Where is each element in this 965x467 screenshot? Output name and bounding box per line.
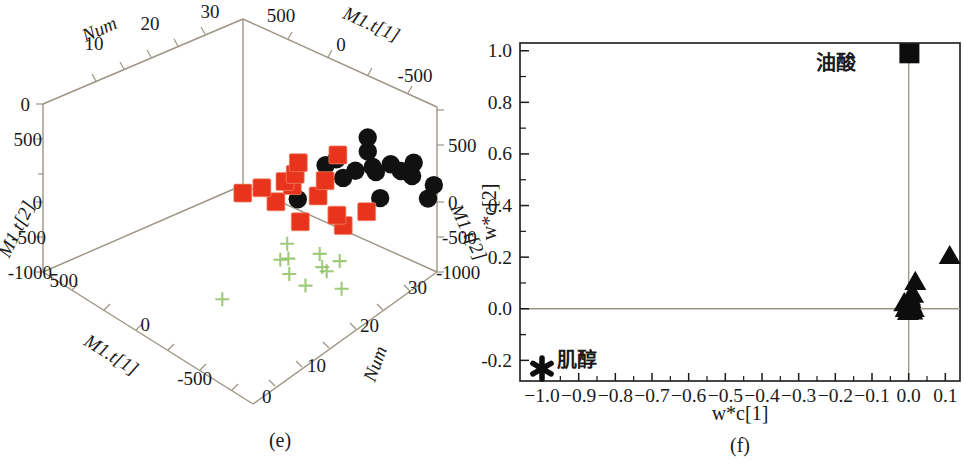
- axis-title-t1-top: M1.t[1]: [339, 2, 403, 46]
- axis-ticks-num-bottom: [269, 285, 410, 386]
- data-point-cross: [282, 267, 296, 281]
- y-axis-title: w*c[2]: [478, 184, 500, 241]
- data-point-square: [234, 184, 252, 202]
- panel-f-data-points: [533, 43, 961, 379]
- tick-t1b-500: 500: [50, 270, 79, 291]
- panel-f-svg: -0.20.00.20.40.60.81.0 −1.0−0.9−0.8−0.7−…: [482, 0, 965, 467]
- tick-t2r-500: 500: [448, 135, 477, 156]
- x-tick-label: −0.1: [854, 385, 889, 406]
- data-point-square: [289, 154, 307, 172]
- data-point-square: [291, 213, 309, 231]
- tick-t1b-m500: -500: [177, 368, 212, 389]
- tick-t1-0: 0: [336, 34, 346, 55]
- reference-lines: [520, 43, 960, 381]
- y-tick-label: 1.0: [488, 40, 512, 61]
- tick-t2l-0a: 0: [21, 94, 31, 115]
- x-tick-label: −0.7: [634, 385, 670, 406]
- x-tick-label: −0.3: [781, 385, 816, 406]
- tick-t1-500: 500: [267, 5, 296, 26]
- annotation-oleic-acid: 油酸: [816, 51, 857, 75]
- data-point-cross: [313, 247, 327, 261]
- x-axis-title: w*c[1]: [712, 402, 769, 424]
- x-tick-label: −0.9: [561, 385, 596, 406]
- marker-triangle: [904, 271, 926, 290]
- axis-title-num-bottom: Num: [359, 343, 391, 385]
- tick-numb-0: 0: [262, 386, 272, 407]
- x-tick-label: −1.0: [524, 385, 559, 406]
- plot-frame: [520, 43, 960, 381]
- tick-t2l-m1000: -1000: [8, 262, 52, 283]
- data-point-circle: [334, 169, 352, 187]
- panel-e-caption: (e): [269, 429, 291, 452]
- x-tick-label: 0.1: [933, 385, 957, 406]
- data-point-square: [358, 203, 376, 221]
- panel-f-loadings-scatter: -0.20.00.20.40.60.81.0 −1.0−0.9−0.8−0.7−…: [482, 0, 965, 467]
- tick-num-20: 20: [141, 13, 160, 34]
- x-axis-ticks: [542, 373, 945, 381]
- figure-container: 10 20 30 Num 500 0 -500 M1.t[1]: [0, 0, 965, 467]
- marker-star-inositol: [533, 358, 551, 379]
- y-axis-ticks: [520, 51, 529, 361]
- data-point-circle: [405, 154, 423, 172]
- data-point-cross: [280, 237, 294, 251]
- data-point-square: [316, 172, 334, 190]
- tick-t2l-500: 500: [14, 129, 43, 150]
- marker-triangle: [939, 245, 961, 264]
- data-point-circle: [382, 155, 400, 173]
- panel-e-3d-scatter: 10 20 30 Num 500 0 -500 M1.t[1]: [0, 0, 482, 467]
- data-point-circle: [425, 176, 443, 194]
- data-point-square: [328, 206, 346, 224]
- y-tick-label: 0.6: [488, 143, 513, 164]
- data-point-cross: [215, 292, 229, 306]
- data-point-square: [253, 179, 271, 197]
- tick-t2r-m1000: -1000: [436, 262, 480, 283]
- tick-t1-m500: -500: [398, 65, 433, 86]
- annotation-inositol: 肌醇: [557, 348, 597, 372]
- x-tick-label: −0.2: [818, 385, 853, 406]
- axis-title-t1-bottom: M1.t[1]: [80, 329, 143, 379]
- y-tick-label: -0.2: [481, 350, 512, 371]
- marker-square-oleic: [899, 43, 919, 63]
- x-tick-label: 0.0: [896, 385, 920, 406]
- data-point-cross: [335, 282, 349, 296]
- panel-e-svg: 10 20 30 Num 500 0 -500 M1.t[1]: [0, 0, 482, 467]
- x-tick-label: −0.6: [671, 385, 707, 406]
- data-point-square: [329, 146, 347, 164]
- tick-num-30: 30: [201, 1, 220, 22]
- tick-numb-10: 10: [307, 355, 326, 376]
- tick-numb-30: 30: [408, 277, 427, 298]
- data-point-cross: [281, 252, 295, 266]
- data-point-cross: [333, 254, 347, 268]
- y-tick-label: 0.0: [488, 298, 512, 319]
- tick-t1b-0: 0: [141, 314, 151, 335]
- x-tick-label: −0.8: [598, 385, 633, 406]
- panel-f-caption: (f): [730, 434, 750, 457]
- data-point-cross: [299, 279, 313, 293]
- data-point-circle: [359, 128, 377, 146]
- tick-numb-20: 20: [360, 315, 379, 336]
- y-tick-label: 0.2: [488, 247, 512, 268]
- y-tick-label: 0.8: [488, 92, 512, 113]
- data-point-cross: [273, 253, 287, 267]
